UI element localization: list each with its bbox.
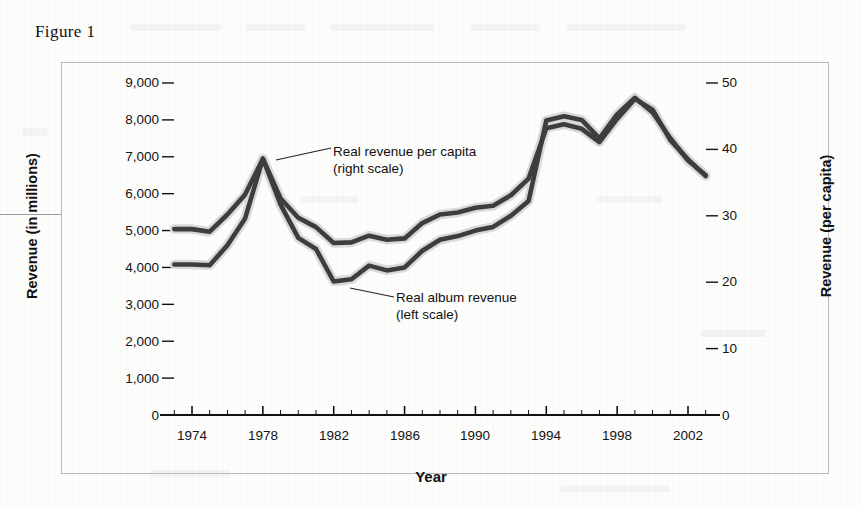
y-tick-right-20: 20	[722, 274, 782, 289]
x-tick-1986: 1986	[375, 428, 435, 443]
y-tick-left-7000: 7,000	[99, 149, 159, 164]
y-axis-left-title: Revenue (in millions)	[24, 116, 40, 336]
annotation-lower-line1: Real album revenue	[396, 290, 517, 307]
y-tick-left-1000: 1,000	[99, 371, 159, 386]
annotation-real-revenue-per-capita: Real revenue per capita (right scale)	[333, 144, 476, 177]
y-tick-right-40: 40	[722, 141, 782, 156]
y-tick-left-3000: 3,000	[99, 297, 159, 312]
y-tick-right-30: 30	[722, 208, 782, 223]
y-tick-left-6000: 6,000	[99, 186, 159, 201]
y-tick-right-0: 0	[722, 408, 782, 423]
figure-caption: Figure 1	[35, 22, 95, 42]
y-tick-left-5000: 5,000	[99, 223, 159, 238]
y-tick-right-10: 10	[722, 341, 782, 356]
chart-frame	[61, 62, 829, 474]
annotation-upper-line2: (right scale)	[333, 161, 476, 178]
y-tick-left-2000: 2,000	[99, 334, 159, 349]
x-tick-2002: 2002	[658, 428, 718, 443]
x-tick-1982: 1982	[304, 428, 364, 443]
y-tick-left-8000: 8,000	[99, 112, 159, 127]
x-tick-1990: 1990	[445, 428, 505, 443]
y-axis-right-title: Revenue (per capita)	[818, 116, 834, 336]
annotation-upper-line1: Real revenue per capita	[333, 144, 476, 161]
x-tick-1998: 1998	[587, 428, 647, 443]
annotation-lower-line2: (left scale)	[396, 307, 517, 324]
x-tick-1978: 1978	[233, 428, 293, 443]
x-tick-1994: 1994	[516, 428, 576, 443]
y-tick-left-4000: 4,000	[99, 260, 159, 275]
x-tick-1974: 1974	[162, 428, 222, 443]
y-tick-left-0: 0	[99, 408, 159, 423]
x-axis-title: Year	[0, 468, 862, 485]
annotation-real-album-revenue: Real album revenue (left scale)	[396, 290, 517, 323]
y-tick-left-9000: 9,000	[99, 75, 159, 90]
y-tick-right-50: 50	[722, 75, 782, 90]
